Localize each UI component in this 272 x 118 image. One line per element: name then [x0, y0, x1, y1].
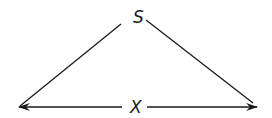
base-label: X	[129, 97, 142, 117]
apex-label: S	[133, 7, 144, 27]
left-slant-edge	[20, 24, 121, 106]
triangle-diagram: S X	[0, 0, 272, 118]
right-slant-edge	[146, 20, 253, 103]
